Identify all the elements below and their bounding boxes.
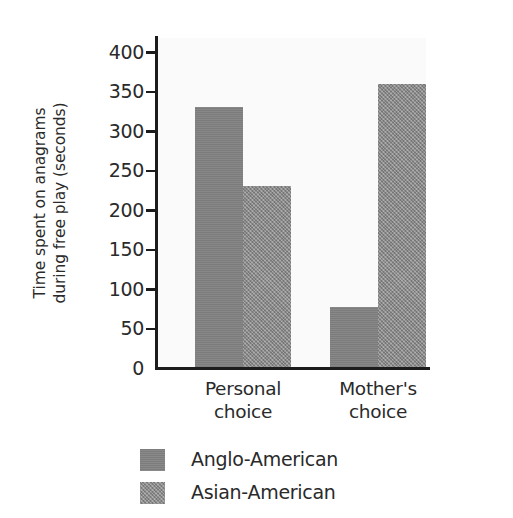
legend-item-asian: Asian-American <box>140 476 440 509</box>
x-axis-category-label: Mother'schoice <box>298 377 458 423</box>
y-axis-tick-label: 250 <box>88 161 144 180</box>
x-axis-category-label-line2: choice <box>298 400 458 423</box>
bar-asian-group1 <box>243 186 291 368</box>
y-axis-line <box>155 36 158 370</box>
plot-area <box>158 38 426 368</box>
y-axis-title-line2: during free play (seconds) <box>51 102 71 303</box>
y-axis-tick-labels: 400350300250200150100500 <box>88 34 144 379</box>
x-axis-line <box>155 367 430 370</box>
y-axis-tick-label: 0 <box>88 359 144 378</box>
legend-label: Anglo-American <box>191 450 338 469</box>
legend-label: Asian-American <box>191 483 336 502</box>
y-axis-tick-label: 300 <box>88 122 144 141</box>
y-axis-tick-label: 50 <box>88 319 144 338</box>
y-axis-title-line1: Time spent on anagrams <box>31 107 49 298</box>
y-axis-title: Time spent on anagrams during free play … <box>16 30 86 375</box>
x-axis-category-label-line1: Personal <box>205 378 281 399</box>
bar-chart-figure: Time spent on anagrams during free play … <box>0 0 513 518</box>
bar-anglo-group1 <box>195 107 243 368</box>
legend-swatch-anglo <box>140 449 165 471</box>
bar-anglo-group2 <box>330 307 378 368</box>
y-axis-tick-label: 150 <box>88 240 144 259</box>
legend-swatch-asian <box>140 482 165 504</box>
y-axis-tick-label: 200 <box>88 201 144 220</box>
legend-item-anglo: Anglo-American <box>140 443 440 476</box>
y-axis-title-text: Time spent on anagrams during free play … <box>31 102 71 303</box>
chart-legend: Anglo-AmericanAsian-American <box>140 443 440 509</box>
y-axis-tick-label: 100 <box>88 280 144 299</box>
bar-asian-group2 <box>378 84 426 368</box>
y-axis-tick-label: 400 <box>88 43 144 62</box>
x-axis-category-label-line1: Mother's <box>339 378 417 399</box>
y-axis-tick-label: 350 <box>88 82 144 101</box>
